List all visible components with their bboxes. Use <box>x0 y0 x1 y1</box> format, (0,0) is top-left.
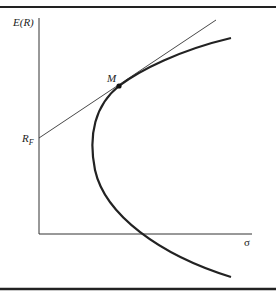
x-axis-label: σ <box>244 236 250 248</box>
y-axis-label: E(R) <box>12 16 34 29</box>
point-m-marker <box>116 83 121 88</box>
rf-label: RF <box>21 132 34 147</box>
point-m-label: M <box>106 72 117 84</box>
chart-figure: E(R) σ M RF <box>0 0 276 294</box>
